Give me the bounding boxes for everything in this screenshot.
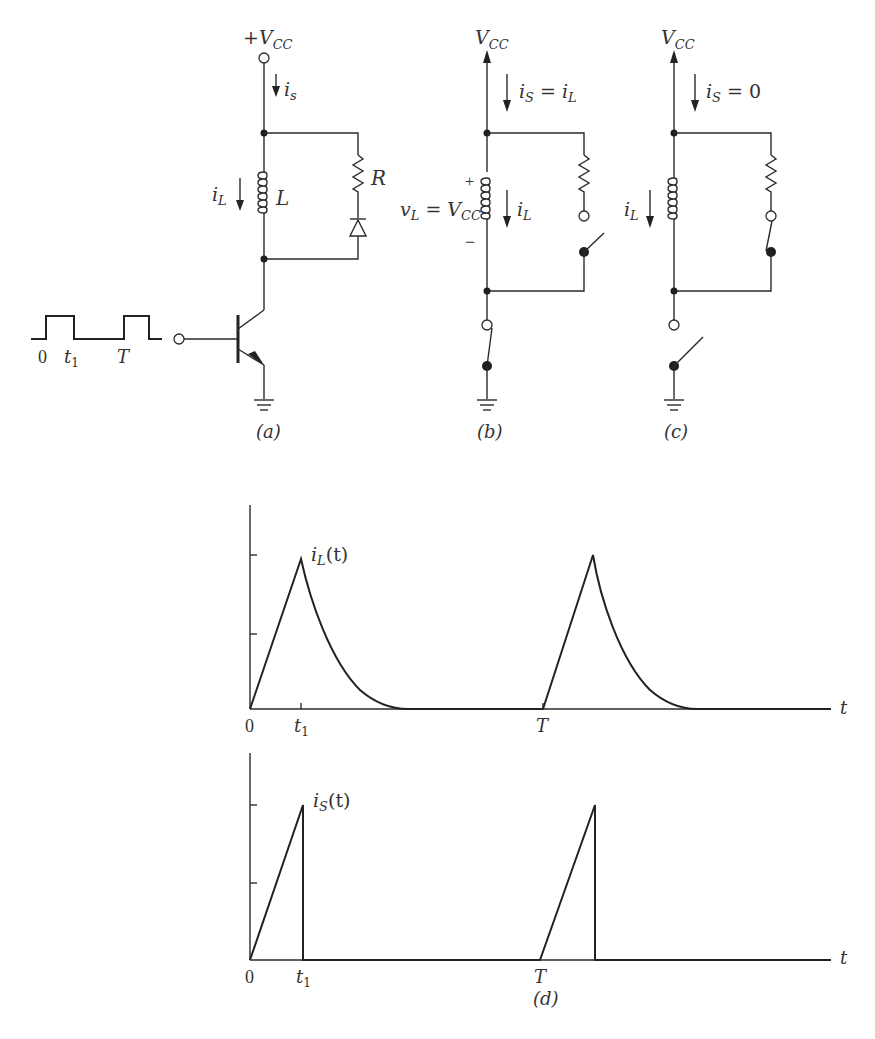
resistor-icon [579,155,589,211]
minus-sign: − [465,232,475,252]
ground-icon [477,400,497,410]
caption-c: (c) [664,421,688,442]
il-arrow-icon [646,216,654,228]
switch-terminal-b [579,211,589,221]
supply-label-b: VCC [475,26,509,52]
tick-t1: t1 [294,715,309,739]
circuit-a: +VCC is R L iL [31,26,386,442]
tick-T: T [534,966,548,987]
switch-terminal-c [766,211,776,221]
t-axis-label: t [840,947,848,968]
resistor-label-a: R [370,166,386,190]
vl-eq-b: vL = VCC [400,198,481,223]
pulse-label-T: T [117,346,131,367]
ground-icon [254,400,274,410]
switch-terminal-b2 [482,320,492,330]
tick-zero: 0 [245,716,254,736]
is-arrow-icon [691,100,699,112]
circuit-c: VCC iS = 0 iL (c) [624,26,776,442]
figure: +VCC is R L iL [0,0,875,1039]
is-series-label: iS(t) [313,789,350,814]
pulse-label-t1: t1 [64,346,79,370]
caption-a: (a) [256,421,281,442]
il-label-a: iL [212,183,227,208]
il-label-c: iL [624,198,639,223]
tick-t1: t1 [296,966,311,990]
transistor-icon [238,310,264,399]
tick-zero: 0 [245,967,254,987]
supply-terminal-a [259,53,269,63]
ground-icon [664,400,684,410]
il-series-label: iL(t) [311,543,348,568]
diode-icon [264,219,366,259]
switch-closed-icon [766,221,772,251]
graph-il: iL(t) 0 t1 T t [245,505,848,739]
current-eq-c: iS = 0 [706,80,761,105]
base-terminal [174,334,184,344]
caption-b: (b) [477,421,503,442]
pulse-train-icon [31,316,162,339]
graph-is: iS(t) 0 t1 T t (d) [245,753,848,1009]
il-label-b: iL [517,198,532,223]
il-waveform [250,555,831,709]
plus-sign: + [465,173,474,190]
inductor-icon [258,172,267,259]
switch-terminal-c2 [669,320,679,330]
is-label-a: is [284,78,297,103]
inductor-icon [481,178,490,320]
switch-closed-icon [487,328,492,366]
resistor-icon [353,155,363,218]
inductor-label-a: L [275,186,289,210]
is-arrow-icon [503,100,511,112]
resistor-icon [766,155,776,211]
node-bottom-b [484,288,491,295]
il-arrow-icon [503,216,511,228]
caption-d: (d) [533,988,559,1009]
inductor-icon [668,178,677,320]
switch-icon [584,233,604,252]
supply-label-c: VCC [661,26,695,52]
t-axis-label: t [840,697,848,718]
switch-open-icon [674,337,703,366]
supply-label-a: +VCC [243,26,293,52]
is-waveform [250,805,831,960]
tick-T: T [536,715,550,736]
node-bottom-c [671,288,678,295]
pulse-label-zero: 0 [38,347,47,367]
circuit-b: VCC iS = iL + − vL = VCC iL [400,26,604,442]
current-eq-b: iS = iL [519,80,577,105]
